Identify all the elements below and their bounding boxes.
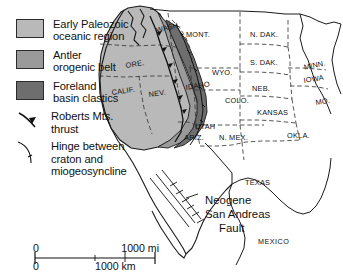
state-label-mont: MONT.	[186, 30, 210, 39]
legend-label-foreland-line2: basin clastics	[53, 92, 118, 104]
state-label-ariz: ARIZ.	[184, 133, 204, 142]
legend-label-antler-line1: Antler	[53, 49, 116, 61]
legend-label-hinge-line3: miogeosyncline	[51, 165, 127, 177]
country-label-mexico: MEXICO	[258, 237, 289, 246]
legend-label-thrust-line2: thrust	[51, 123, 113, 135]
thrust-fault-icon	[16, 110, 42, 135]
scale-miles-max: 1000 mi	[121, 242, 159, 254]
legend-label-foreland-line1: Foreland	[53, 80, 118, 92]
legend-symbol-thrust	[16, 110, 42, 135]
scale-bar: 0 1000 mi 0 1000 km	[33, 243, 155, 275]
scale-miles-zero: 0	[33, 242, 39, 254]
legend-swatch-antler	[16, 50, 44, 69]
state-label-n-mex: N. MEX.	[219, 133, 248, 142]
state-label-wyo: WYO.	[212, 68, 233, 77]
annotation-san-andreas: San Andreas	[205, 208, 270, 220]
legend-label-thrust-line1: Roberts Mts.	[51, 110, 113, 122]
state-label-n-dak: N. DAK.	[250, 30, 278, 39]
state-label-neb: NEB.	[252, 84, 270, 93]
legend-label-hinge: Hinge between craton and miogeosyncline	[51, 140, 127, 177]
legend-swatch-oceanic	[16, 19, 44, 38]
annotation-neogene: Neogene	[205, 194, 251, 206]
map-legend: Early Paleozoic oceanic region Antler or…	[16, 18, 166, 183]
legend-label-antler: Antler orogenic belt	[53, 49, 116, 74]
legend-label-thrust: Roberts Mts. thrust	[51, 110, 113, 135]
legend-label-oceanic-line1: Early Paleozoic	[53, 18, 129, 30]
state-label-kansas: KANSAS	[257, 108, 288, 117]
legend-item-oceanic: Early Paleozoic oceanic region	[16, 18, 166, 43]
legend-label-oceanic-line2: oceanic region	[53, 30, 129, 42]
legend-label-hinge-line2: craton and	[51, 153, 127, 165]
legend-item-hinge: Hinge between craton and miogeosyncline	[16, 140, 166, 177]
scale-km-zero: 0	[33, 260, 39, 272]
legend-label-oceanic: Early Paleozoic oceanic region	[53, 18, 129, 43]
state-label-texas: TEXAS	[245, 178, 270, 187]
legend-item-thrust: Roberts Mts. thrust	[16, 110, 166, 135]
state-label-utah: UTAH	[195, 122, 215, 131]
legend-label-foreland: Foreland basin clastics	[53, 80, 118, 105]
legend-label-antler-line2: orogenic belt	[53, 61, 116, 73]
legend-label-hinge-line1: Hinge between	[51, 140, 127, 152]
geologic-map-figure: Early Paleozoic oceanic region Antler or…	[0, 0, 343, 280]
legend-swatch-foreland	[16, 81, 44, 100]
state-label-okla: OKLA.	[287, 131, 310, 140]
legend-item-foreland: Foreland basin clastics	[16, 80, 166, 105]
state-label-colo: COLO.	[225, 96, 249, 105]
state-label-s-dak: S. DAK.	[250, 58, 278, 67]
annotation-fault: Fault	[219, 222, 244, 234]
hinge-line-icon	[16, 140, 42, 165]
legend-symbol-hinge	[16, 140, 42, 165]
scale-km-max: 1000 km	[95, 260, 136, 272]
